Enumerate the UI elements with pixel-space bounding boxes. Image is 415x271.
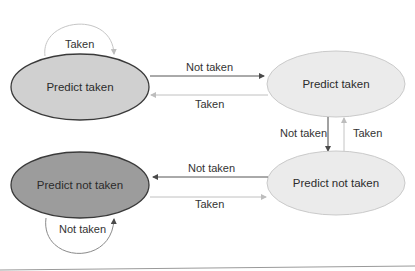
transition-label: Taken [353, 127, 382, 139]
transition-label: Taken [65, 38, 94, 50]
transition-label: Not taken [59, 223, 106, 235]
transition-label: Taken [195, 98, 224, 110]
state-predict-taken-strong: Predict taken [11, 54, 149, 120]
state-diagram: Taken Predict taken Not taken Taken Pred… [0, 0, 415, 271]
page-divider [0, 266, 415, 270]
transition-label: Not taken [188, 162, 235, 174]
svg-text:Predict taken: Predict taken [46, 81, 113, 93]
transition-label: Not taken [280, 127, 327, 139]
transition-label: Taken [195, 198, 224, 210]
state-predict-not-taken-strong: Predict not taken [11, 152, 149, 218]
svg-text:Predict taken: Predict taken [302, 78, 369, 90]
state-predict-taken-weak: Predict taken [267, 51, 405, 117]
state-predict-not-taken-weak: Predict not taken [267, 151, 405, 215]
svg-text:Predict not taken: Predict not taken [293, 177, 379, 189]
svg-text:Predict not taken: Predict not taken [37, 179, 123, 191]
transition-label: Not taken [186, 61, 233, 73]
